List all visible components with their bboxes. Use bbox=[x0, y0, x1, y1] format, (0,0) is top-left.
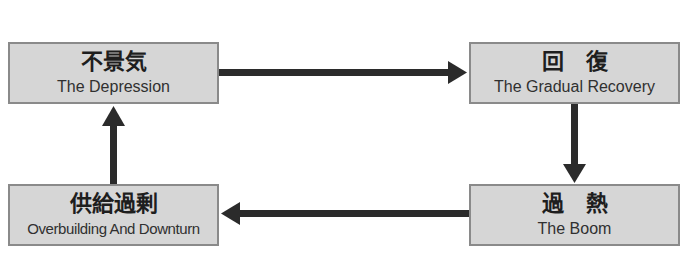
node-depression: 不景気 The Depression bbox=[8, 42, 219, 104]
arrow-down-icon bbox=[563, 104, 586, 183]
node-boom-jp-label: 過 熱 bbox=[471, 192, 678, 216]
node-overbuilding-jp-label: 供給過剰 bbox=[10, 192, 217, 216]
node-overbuilding-en-label: Overbuilding And Downturn bbox=[10, 219, 217, 239]
node-depression-jp-label: 不景気 bbox=[10, 50, 217, 74]
node-overbuilding: 供給過剰 Overbuilding And Downturn bbox=[8, 184, 219, 246]
node-recovery-en-label: The Gradual Recovery bbox=[471, 77, 678, 97]
node-recovery: 回 復 The Gradual Recovery bbox=[469, 42, 680, 104]
arrow-right-icon bbox=[219, 61, 467, 84]
node-boom-en-label: The Boom bbox=[471, 219, 678, 239]
arrow-left-icon bbox=[221, 202, 469, 225]
node-depression-en-label: The Depression bbox=[10, 77, 217, 97]
arrow-up-icon bbox=[102, 106, 125, 184]
node-boom: 過 熱 The Boom bbox=[469, 184, 680, 246]
node-recovery-jp-label: 回 復 bbox=[471, 50, 678, 74]
